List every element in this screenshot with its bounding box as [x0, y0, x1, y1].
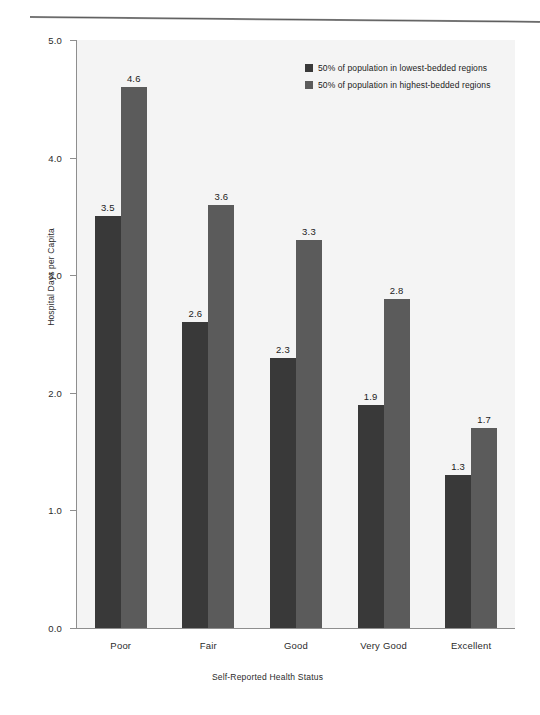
bar-good-series-1: [270, 358, 296, 628]
x-axis-title: Self-Reported Health Status: [0, 672, 535, 682]
bar-excellent-series-1: [445, 475, 471, 628]
y-axis-tick: [70, 275, 76, 276]
y-axis-tick-label: 4.0: [0, 152, 62, 163]
bar-good-series-2: [296, 240, 322, 628]
y-axis-line: [76, 40, 77, 629]
bar-value-label: 3.3: [289, 226, 329, 237]
y-axis-tick-label: 1.0: [0, 505, 62, 516]
bar-value-label: 4.6: [114, 73, 154, 84]
bar-fair-series-1: [182, 322, 208, 628]
y-axis-tick: [70, 158, 76, 159]
bar-value-label: 1.7: [464, 414, 504, 425]
y-axis-title: Hospital Days per Capita: [46, 207, 56, 347]
y-axis-tick: [70, 510, 76, 511]
legend-swatch-icon: [305, 81, 313, 89]
bar-excellent-series-2: [471, 428, 497, 628]
y-axis-tick: [70, 40, 76, 41]
legend-item-label: 50% of population in highest-bedded regi…: [318, 80, 491, 90]
legend-swatch-icon: [305, 64, 313, 72]
x-axis-label-very-good: Very Good: [340, 640, 428, 651]
bar-value-label: 2.8: [377, 285, 417, 296]
chart-legend: 50% of population in lowest-bedded regio…: [305, 62, 491, 96]
bar-very-good-series-2: [384, 299, 410, 628]
x-axis-label-excellent: Excellent: [427, 640, 515, 651]
x-axis-label-poor: Poor: [77, 640, 165, 651]
bar-fair-series-2: [208, 205, 234, 628]
bar-value-label: 3.6: [201, 191, 241, 202]
x-axis-label-fair: Fair: [165, 640, 253, 651]
x-axis-label-good: Good: [252, 640, 340, 651]
bar-poor-series-2: [121, 87, 147, 628]
y-axis-tick-label: 5.0: [0, 35, 62, 46]
y-axis-tick: [70, 393, 76, 394]
legend-item-label: 50% of population in lowest-bedded regio…: [318, 63, 487, 73]
x-axis-line: [76, 628, 515, 629]
bar-very-good-series-1: [358, 405, 384, 628]
y-axis-tick-label: 2.0: [0, 387, 62, 398]
bar-poor-series-1: [95, 216, 121, 628]
legend-item-2: 50% of population in highest-bedded regi…: [305, 79, 491, 90]
legend-item-1: 50% of population in lowest-bedded regio…: [305, 62, 491, 73]
y-axis-tick: [70, 628, 76, 629]
y-axis-tick-label: 0.0: [0, 623, 62, 634]
